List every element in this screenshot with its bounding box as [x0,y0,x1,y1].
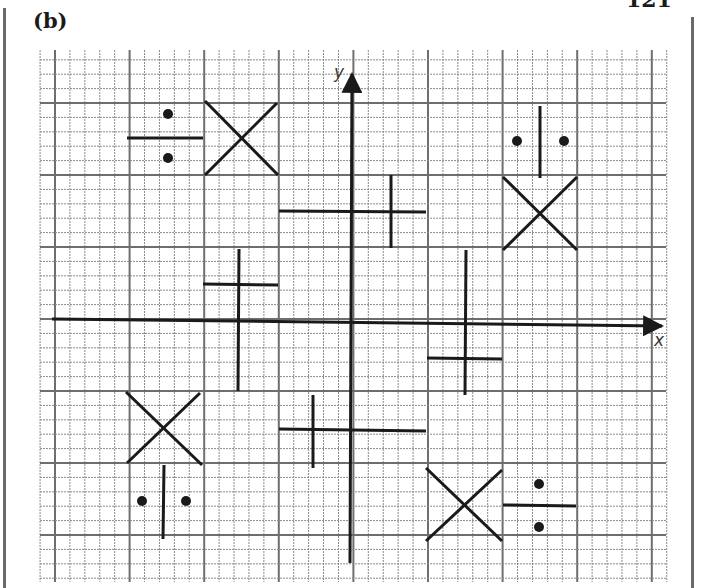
dot [534,479,544,489]
dot [512,136,522,146]
x-axis-label: x [653,330,665,350]
division-sign-bottom-left [137,465,191,539]
division-sign-bottom-right [503,479,576,532]
x-axis [52,319,662,326]
division-sign-top-right [512,106,569,178]
multiplication-sign-bottom-right [426,468,502,541]
multiplication-sign-top-right [503,177,577,250]
dot [163,109,173,119]
y-axis [350,74,352,563]
multiplication-sign-top-left [205,101,278,175]
dot [559,136,569,146]
dot [181,496,191,506]
coordinate-grid-figure: x y [0,0,705,588]
dot [163,153,173,163]
dot [137,496,147,506]
y-axis-label: y [333,62,345,82]
grid [40,50,667,582]
dot [534,522,544,532]
multiplication-sign-bottom-left [126,392,202,465]
